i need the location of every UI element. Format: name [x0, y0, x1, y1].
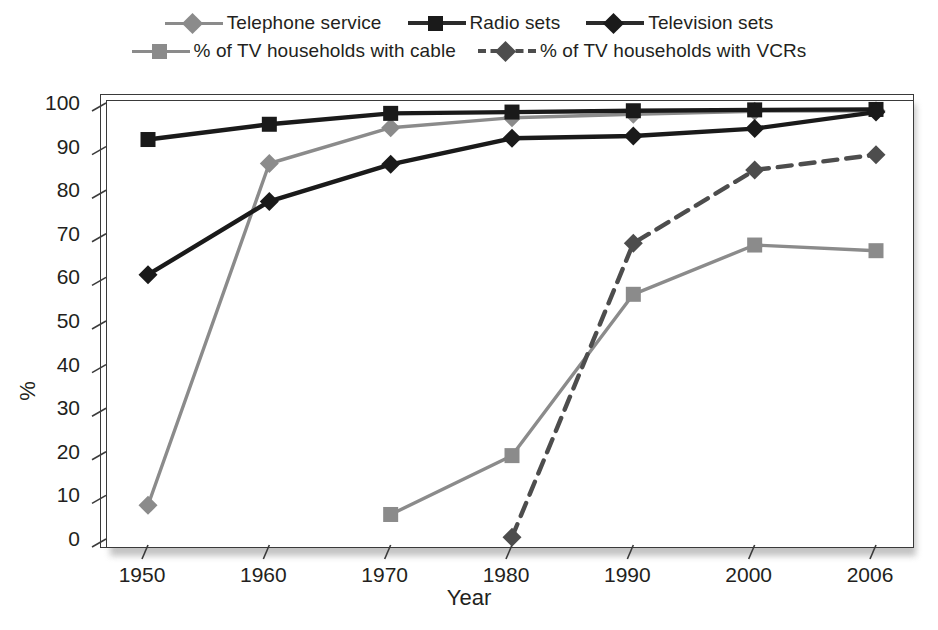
data-point-marker	[383, 507, 398, 522]
y-tick-mark	[92, 408, 106, 416]
x-tick-mark	[870, 545, 876, 559]
legend-item[interactable]: % of TV households with cable	[132, 40, 456, 62]
data-point-marker	[139, 496, 158, 515]
legend-label: Radio sets	[470, 12, 561, 34]
legend-swatch-icon	[408, 13, 466, 33]
legend-label: % of TV households with cable	[194, 40, 456, 62]
y-tick-label: 100	[24, 91, 80, 115]
legend-item[interactable]: Telephone service	[165, 12, 382, 34]
y-tick-mark	[92, 321, 106, 329]
data-point-marker	[869, 243, 884, 258]
y-tick-mark	[92, 234, 106, 242]
data-point-marker	[383, 106, 398, 121]
legend-marker-icon	[182, 13, 203, 34]
y-tick-mark	[92, 103, 106, 111]
y-tick-label: 0	[24, 527, 80, 551]
chart-page: Telephone serviceRadio setsTelevision se…	[0, 0, 938, 630]
legend-item[interactable]: Radio sets	[408, 12, 561, 34]
legend-row-1: Telephone serviceRadio setsTelevision se…	[165, 12, 774, 34]
chart-legend: Telephone serviceRadio setsTelevision se…	[0, 12, 938, 62]
series-4	[503, 145, 886, 546]
data-point-marker	[624, 234, 643, 253]
series-3	[383, 238, 883, 522]
x-axis-title: Year	[0, 585, 938, 611]
data-point-marker	[381, 118, 400, 137]
data-point-marker	[503, 528, 522, 547]
data-point-marker	[745, 161, 764, 180]
y-tick-mark	[92, 190, 106, 198]
y-tick-label: 90	[24, 135, 80, 159]
x-tick-mark	[263, 545, 269, 559]
data-point-marker	[139, 265, 158, 284]
series-2	[139, 103, 886, 285]
x-tick-mark	[749, 545, 755, 559]
data-point-marker	[381, 155, 400, 174]
y-tick-label: 70	[24, 222, 80, 246]
x-tick-label: 1970	[340, 563, 430, 587]
y-tick-label: 50	[24, 309, 80, 333]
x-tick-label: 2000	[704, 563, 794, 587]
y-tick-mark	[92, 452, 106, 460]
data-point-marker	[260, 192, 279, 211]
x-tick-mark	[506, 545, 512, 559]
chart-svg	[0, 88, 938, 630]
legend-item[interactable]: % of TV households with VCRs	[478, 40, 806, 62]
y-tick-mark	[92, 147, 106, 155]
plot-area: 0102030405060708090100 19501960197019801…	[0, 88, 938, 630]
legend-row-2: % of TV households with cable% of TV hou…	[132, 40, 807, 62]
y-tick-label: 80	[24, 178, 80, 202]
y-tick-label: 20	[24, 440, 80, 464]
y-tick-mark	[92, 495, 106, 503]
data-point-marker	[867, 145, 886, 164]
y-tick-mark	[92, 365, 106, 373]
legend-marker-icon	[152, 44, 167, 59]
data-point-marker	[747, 238, 762, 253]
data-point-marker	[260, 154, 279, 173]
legend-swatch-icon	[586, 13, 644, 33]
x-tick-label: 1990	[582, 563, 672, 587]
legend-item[interactable]: Television sets	[586, 12, 773, 34]
data-point-marker	[505, 448, 520, 463]
data-point-marker	[626, 103, 641, 118]
x-tick-mark	[627, 545, 633, 559]
legend-label: Telephone service	[227, 12, 382, 34]
data-point-marker	[624, 127, 643, 146]
data-point-marker	[141, 132, 156, 147]
data-point-marker	[262, 117, 277, 132]
y-axis-title: %	[15, 361, 41, 421]
y-tick-label: 10	[24, 483, 80, 507]
legend-swatch-icon	[478, 41, 536, 61]
legend-marker-icon	[603, 13, 624, 34]
data-point-marker	[745, 119, 764, 138]
y-tick-label: 60	[24, 265, 80, 289]
legend-marker-icon	[495, 41, 516, 62]
x-tick-mark	[385, 545, 391, 559]
data-point-marker	[505, 105, 520, 120]
series-line	[391, 245, 876, 515]
x-tick-label: 1950	[97, 563, 187, 587]
x-tick-mark	[142, 545, 148, 559]
x-tick-label: 1960	[218, 563, 308, 587]
legend-label: % of TV households with VCRs	[540, 40, 806, 62]
series-line	[512, 155, 876, 537]
data-point-marker	[626, 287, 641, 302]
data-point-marker	[503, 129, 522, 148]
y-tick-mark	[92, 539, 106, 547]
legend-swatch-icon	[165, 13, 223, 33]
legend-label: Television sets	[648, 12, 773, 34]
y-tick-mark	[92, 277, 106, 285]
legend-swatch-icon	[132, 41, 190, 61]
data-point-marker	[747, 102, 762, 117]
x-tick-label: 2006	[825, 563, 915, 587]
x-tick-label: 1980	[461, 563, 551, 587]
legend-marker-icon	[428, 16, 443, 31]
